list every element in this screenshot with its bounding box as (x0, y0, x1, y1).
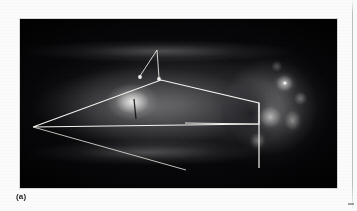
internal-marker-line (134, 99, 136, 119)
page-gutter-tick (348, 203, 354, 205)
arrow-head-right (157, 77, 161, 81)
annotation-overlay (20, 19, 337, 188)
angle-measurement-wedge (33, 80, 259, 127)
paired-arrow-marker (138, 50, 161, 81)
wedge-base-tick (185, 123, 259, 124)
figure-page: (a) (0, 0, 357, 211)
arrow-shaft-left (140, 50, 157, 76)
punctate-speck (283, 81, 286, 84)
page-gutter-line (352, 0, 353, 211)
figure-caption-label: (a) (16, 192, 26, 202)
arrow-shaft-right (157, 50, 159, 78)
radiograph-panel[interactable] (20, 19, 337, 188)
arrow-head-left (138, 75, 142, 79)
oblique-reference-line (33, 127, 186, 170)
punctate-speck-group (283, 81, 286, 84)
